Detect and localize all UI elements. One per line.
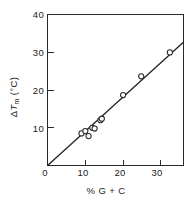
data-point [167, 50, 172, 55]
svg-text:ΔTm (°C): ΔTm (°C) [8, 77, 20, 118]
data-point [99, 116, 104, 121]
x-tick-label-20: 20 [114, 167, 125, 178]
y-tick-label-20: 20 [33, 85, 44, 96]
data-point [92, 126, 97, 131]
fitted-line [48, 42, 184, 165]
regression-line [48, 42, 184, 165]
x-axis-title: % G + C [87, 185, 126, 196]
data-point [121, 92, 126, 97]
data-point [86, 134, 91, 139]
x-axis-title-text: % G + C [87, 185, 126, 196]
data-point [83, 129, 88, 134]
y-axis-units: (°C) [8, 77, 19, 96]
y-tick-label-0: 0 [42, 167, 48, 178]
x-tick-label-30: 30 [151, 167, 162, 178]
scatter-plot: ΔTm (°C) 40 30 20 10 0 10 20 30 % G + C [0, 0, 193, 202]
axis-box [48, 15, 184, 166]
y-tick-label-10: 10 [33, 123, 44, 134]
y-axis-ticks [48, 52, 54, 128]
x-axis-tick-labels: 10 20 30 [77, 167, 162, 178]
y-axis-title: ΔTm (°C) [8, 77, 20, 118]
x-tick-label-10: 10 [77, 167, 88, 178]
y-tick-label-30: 30 [33, 47, 44, 58]
data-point [139, 74, 144, 79]
y-tick-label-40: 40 [33, 9, 44, 20]
plot-frame [48, 15, 184, 166]
chart-figure: ΔTm (°C) 40 30 20 10 0 10 20 30 % G + C [0, 0, 193, 202]
data-points [79, 50, 173, 139]
y-axis-tick-labels: 40 30 20 10 0 [33, 9, 48, 179]
x-axis-ticks [85, 160, 161, 166]
